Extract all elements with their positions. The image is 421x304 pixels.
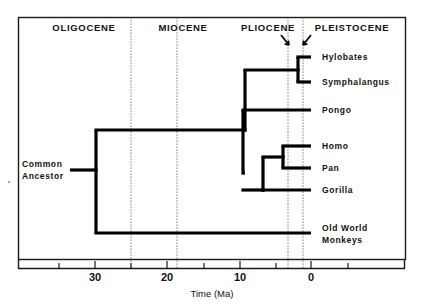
axis-title-time: Time (Ma) bbox=[191, 288, 234, 299]
taxon-label-hylobates: Hylobates bbox=[322, 52, 368, 62]
axis-tick-label-10: 10 bbox=[234, 271, 246, 283]
axis-tick-label-20: 20 bbox=[161, 271, 173, 283]
taxon-label-gorilla: Gorilla bbox=[322, 185, 353, 195]
taxon-label-pan: Pan bbox=[322, 163, 339, 173]
taxon-label-pongo: Pongo bbox=[322, 105, 351, 115]
axis-major-ticks bbox=[95, 261, 311, 269]
taxon-label-old-world-monkeys-line2: Monkeys bbox=[322, 235, 363, 245]
epoch-labels: OLIGOCENE MIOCENE PLIOCENE PLEISTOCENE bbox=[52, 22, 389, 33]
scan-artifact-speck bbox=[8, 181, 10, 183]
common-ancestor-label: Common Ancestor bbox=[22, 159, 64, 181]
axis-tick-labels: 30 20 10 0 bbox=[89, 271, 314, 283]
axis-tick-label-0: 0 bbox=[308, 271, 314, 283]
common-ancestor-line2: Ancestor bbox=[22, 171, 64, 181]
taxon-labels: Hylobates Symphalangus Pongo Homo Pan Go… bbox=[322, 52, 390, 245]
taxon-label-symphalangus: Symphalangus bbox=[322, 77, 390, 87]
axis-tick-label-30: 30 bbox=[89, 271, 101, 283]
epoch-label-miocene: MIOCENE bbox=[158, 22, 207, 33]
taxon-label-homo: Homo bbox=[322, 141, 348, 151]
epoch-boundaries bbox=[131, 18, 303, 269]
epoch-label-pleistocene: PLEISTOCENE bbox=[315, 22, 390, 33]
phylogenetic-tree-figure: OLIGOCENE MIOCENE PLIOCENE PLEISTOCENE bbox=[0, 0, 421, 304]
epoch-label-pliocene: PLIOCENE bbox=[241, 22, 295, 33]
epoch-pointer-arrows bbox=[281, 35, 311, 45]
figure-root: OLIGOCENE MIOCENE PLIOCENE PLEISTOCENE bbox=[0, 0, 421, 304]
x-axis: 30 20 10 0 Time (Ma) bbox=[18, 259, 405, 299]
tree-branches bbox=[70, 57, 311, 233]
taxon-label-old-world-monkeys-line1: Old World bbox=[322, 223, 368, 233]
axis-minor-ticks bbox=[59, 263, 348, 269]
common-ancestor-line1: Common bbox=[22, 159, 62, 169]
epoch-label-oligocene: OLIGOCENE bbox=[52, 22, 115, 33]
